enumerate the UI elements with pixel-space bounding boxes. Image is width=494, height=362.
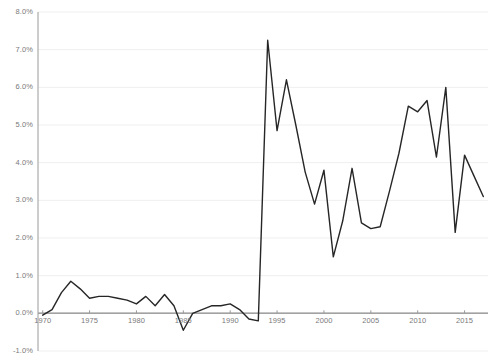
x-axis-tick-label: 2015 — [445, 317, 485, 325]
y-axis-tick-label: 3.0% — [0, 196, 33, 204]
y-axis-tick-label: 6.0% — [0, 83, 33, 91]
y-axis-tick-label: 8.0% — [0, 8, 33, 16]
y-axis-tick-label: 0.0% — [0, 309, 33, 317]
line-chart-plot — [0, 0, 494, 362]
y-axis-tick-label: 1.0% — [0, 272, 33, 280]
x-axis-tick-label: 1990 — [210, 317, 250, 325]
x-axis-tick-label: 1985 — [163, 317, 203, 325]
x-axis-tick-label: 2005 — [351, 317, 391, 325]
y-axis-tick-label: 2.0% — [0, 234, 33, 242]
x-axis-tick-label: 1975 — [70, 317, 110, 325]
x-axis-tick-label: 2010 — [398, 317, 438, 325]
x-axis-tick-label: 2000 — [304, 317, 344, 325]
y-axis-tick-label: 5.0% — [0, 121, 33, 129]
y-axis-tick-label: 7.0% — [0, 46, 33, 54]
chart-container: 8.0%7.0%6.0%5.0%4.0%3.0%2.0%1.0%0.0%-1.0… — [0, 0, 494, 362]
y-axis-tick-label: 4.0% — [0, 159, 33, 167]
x-axis-tick-label: 1995 — [257, 317, 297, 325]
x-axis-tick-label: 1980 — [116, 317, 156, 325]
series-line — [43, 40, 484, 330]
y-axis-tick-label: -1.0% — [0, 347, 33, 355]
x-axis-tick-label: 1970 — [23, 317, 63, 325]
